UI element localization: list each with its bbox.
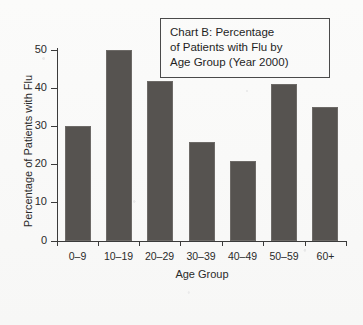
bar-40-49 [230, 161, 256, 241]
bar-chart: Chart B: Percentage of Patients with Flu… [0, 0, 363, 325]
y-axis-title: Percentage of Patients with Flu [22, 51, 34, 251]
y-axis-line [57, 48, 58, 242]
y-tick-10: 10 [51, 202, 57, 203]
x-label-60plus: 60+ [305, 250, 346, 263]
chart-title-line-1: Chart B: Percentage [170, 25, 321, 40]
x-tick-4 [222, 241, 223, 246]
y-tick-label-30: 30 [35, 119, 47, 132]
y-tick-label-0: 0 [41, 234, 47, 247]
x-tick-2 [139, 241, 140, 246]
x-label-50-59: 50–59 [263, 250, 305, 263]
x-tick-6 [305, 241, 306, 246]
x-axis-title: Age Group [57, 268, 347, 280]
x-axis-line [57, 241, 347, 242]
x-tick-3 [180, 241, 181, 246]
x-label-20-29: 20–29 [139, 250, 180, 263]
bar-10-19 [106, 50, 132, 241]
x-tick-7 [346, 241, 347, 246]
x-tick-5 [263, 241, 264, 246]
x-tick-1 [98, 241, 99, 246]
bar-0-9 [65, 126, 91, 241]
y-tick-40: 40 [51, 88, 57, 89]
x-label-40-49: 40–49 [222, 250, 263, 263]
chart-title-box: Chart B: Percentage of Patients with Flu… [160, 18, 330, 78]
x-tick-0 [57, 241, 58, 246]
y-tick-label-10: 10 [35, 195, 47, 208]
chart-title-line-2: of Patients with Flu by [170, 40, 321, 55]
y-tick-label-40: 40 [35, 81, 47, 94]
x-label-30-39: 30–39 [180, 250, 222, 263]
x-label-0-9: 0–9 [57, 250, 98, 263]
bar-60plus [312, 107, 338, 241]
bar-50-59 [271, 84, 297, 241]
y-tick-50: 50 [51, 50, 57, 51]
y-tick-label-20: 20 [35, 157, 47, 170]
chart-title-line-3: Age Group (Year 2000) [170, 55, 321, 70]
y-tick-label-50: 50 [35, 43, 47, 56]
y-tick-30: 30 [51, 126, 57, 127]
bar-20-29 [147, 81, 173, 241]
x-label-10-19: 10–19 [98, 250, 139, 263]
bar-30-39 [189, 142, 215, 241]
y-tick-20: 20 [51, 164, 57, 165]
